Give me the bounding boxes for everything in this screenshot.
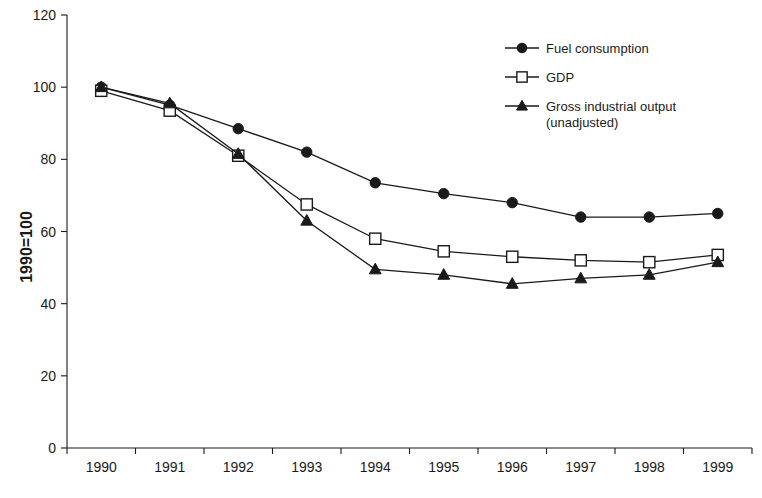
y-tick-label: 20 <box>40 368 56 384</box>
marker-open-square <box>438 246 449 257</box>
marker-open-square <box>370 233 381 244</box>
x-tick-label: 1991 <box>154 459 185 475</box>
legend-label-line2: (unadjusted) <box>546 115 618 130</box>
x-tick-label: 1998 <box>634 459 665 475</box>
marker-filled-triangle <box>369 263 381 274</box>
x-tick-label: 1993 <box>291 459 322 475</box>
marker-filled-circle <box>233 123 243 133</box>
marker-open-square <box>517 72 527 82</box>
x-tick-label: 1995 <box>428 459 459 475</box>
line-chart: 1990=100 020406080100120 199019911992199… <box>0 0 762 498</box>
series-line <box>101 91 718 262</box>
marker-filled-circle <box>302 147 312 157</box>
y-axis-ticks: 020406080100120 <box>33 7 67 456</box>
chart-container: 1990=100 020406080100120 199019911992199… <box>0 0 762 498</box>
y-tick-label: 80 <box>40 151 56 167</box>
marker-filled-circle <box>439 188 449 198</box>
y-tick-label: 40 <box>40 296 56 312</box>
marker-filled-circle <box>370 178 380 188</box>
x-tick-label: 1994 <box>360 459 391 475</box>
marker-open-square <box>507 251 518 262</box>
y-axis-title-group: 1990=100 <box>18 211 35 283</box>
y-tick-label: 100 <box>33 79 57 95</box>
x-axis-ticks: 1990199119921993199419951996199719981999 <box>67 448 752 475</box>
chart-legend: Fuel consumptionGDPGross industrial outp… <box>505 41 676 130</box>
y-tick-label: 120 <box>33 7 57 23</box>
marker-filled-circle <box>507 197 517 207</box>
y-axis-title: 1990=100 <box>18 211 35 283</box>
x-tick-label: 1990 <box>86 459 117 475</box>
legend-label: Fuel consumption <box>546 41 649 56</box>
marker-filled-circle <box>644 212 654 222</box>
marker-filled-circle <box>517 43 527 53</box>
marker-filled-circle <box>713 208 723 218</box>
marker-open-square <box>644 257 655 268</box>
series-line <box>101 87 718 284</box>
marker-open-square <box>301 199 312 210</box>
y-tick-label: 60 <box>40 224 56 240</box>
legend-label: Gross industrial output <box>546 99 676 114</box>
x-tick-label: 1997 <box>565 459 596 475</box>
x-tick-label: 1992 <box>223 459 254 475</box>
marker-filled-circle <box>576 212 586 222</box>
x-tick-label: 1996 <box>497 459 528 475</box>
marker-filled-triangle <box>517 100 528 110</box>
legend-item[interactable]: Fuel consumption <box>505 41 649 56</box>
legend-label: GDP <box>546 70 574 85</box>
legend-item[interactable]: Gross industrial output(unadjusted) <box>505 99 676 130</box>
marker-open-square <box>575 255 586 266</box>
x-tick-label: 1999 <box>702 459 733 475</box>
legend-item[interactable]: GDP <box>505 70 574 85</box>
y-tick-label: 0 <box>48 440 56 456</box>
